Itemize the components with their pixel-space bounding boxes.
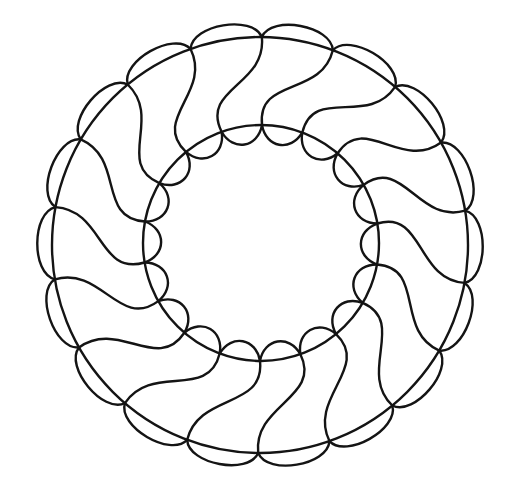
figure-canvas bbox=[0, 0, 512, 487]
rosette-drawing bbox=[0, 0, 512, 487]
background bbox=[0, 0, 512, 487]
